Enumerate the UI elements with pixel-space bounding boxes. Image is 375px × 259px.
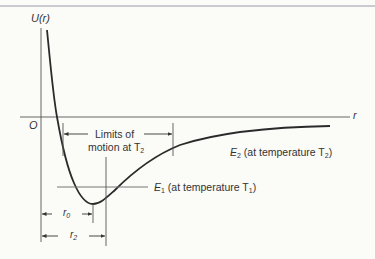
limits-label-line1: Limits of xyxy=(95,129,134,140)
potential-energy-diagram xyxy=(0,0,375,259)
e2-label: E2 (at temperature T2) xyxy=(230,147,332,159)
r0-label: r0 xyxy=(63,208,70,219)
x-axis-label: r xyxy=(353,110,357,121)
e1-label: E1 (at temperature T1) xyxy=(154,182,256,194)
y-axis-label: U(r) xyxy=(31,13,50,24)
r2-label: r2 xyxy=(70,230,77,241)
origin-label: O xyxy=(29,120,38,131)
limits-label-line2: motion at T2 xyxy=(88,142,144,154)
